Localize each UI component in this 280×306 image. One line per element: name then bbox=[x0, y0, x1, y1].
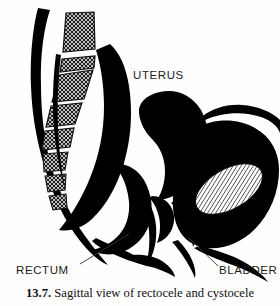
vertebral-body-1 bbox=[63, 12, 95, 52]
figure-caption: 13.7. Sagittal view of rectocele and cys… bbox=[0, 286, 280, 301]
figure-number: 13.7. bbox=[26, 286, 51, 300]
label-uterus: UTERUS bbox=[133, 69, 184, 81]
label-bladder: BLADDER bbox=[219, 264, 278, 276]
anatomy-illustration bbox=[0, 0, 280, 306]
label-rectum: RECTUM bbox=[16, 264, 69, 276]
figure-rectocele-cystocele: UTERUS RECTUM BLADDER 13.7. Sagittal vie… bbox=[0, 0, 280, 306]
sacral-segment-1 bbox=[43, 152, 68, 172]
figure-caption-text: Sagittal view of rectocele and cystocele bbox=[54, 286, 254, 300]
